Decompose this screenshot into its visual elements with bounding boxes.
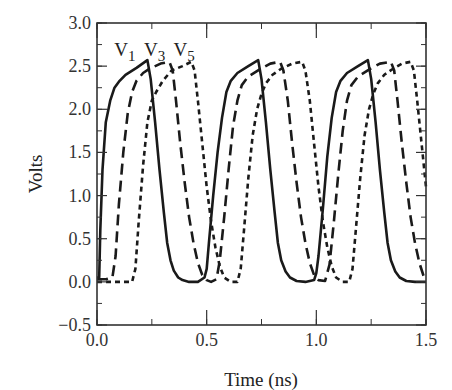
series-v1-line [97, 60, 426, 282]
series-v3-line [97, 62, 426, 282]
y-tick-label: 3.0 [69, 13, 92, 33]
x-tick-label: 1.5 [415, 330, 438, 350]
x-tick-label: 0.5 [195, 330, 218, 350]
legend-label-v1: V1 [114, 39, 135, 64]
y-tick-label: 0.5 [69, 229, 92, 249]
y-tick-label: 0.0 [69, 272, 92, 292]
x-axis-title: Time (ns) [224, 369, 298, 390]
x-tick-label: 1.0 [305, 330, 328, 350]
plot-frame [97, 23, 426, 325]
y-tick-label: −0.5 [58, 315, 91, 335]
legend-annotations: V1V3V5 [114, 39, 194, 64]
series-layer [97, 60, 426, 282]
y-axis-title: Volts [25, 155, 46, 194]
y-tick-label: 1.0 [69, 186, 92, 206]
legend-label-v5: V5 [174, 39, 195, 64]
y-tick-label: 2.0 [69, 99, 92, 119]
line-chart: 0.00.51.01.5 −0.50.00.51.01.52.02.53.0 V… [0, 0, 452, 390]
y-tick-label: 2.5 [69, 56, 92, 76]
series-v5-line [97, 62, 426, 282]
y-tick-label: 1.5 [69, 142, 92, 162]
y-axis: −0.50.00.51.01.52.02.53.0 [58, 13, 426, 335]
